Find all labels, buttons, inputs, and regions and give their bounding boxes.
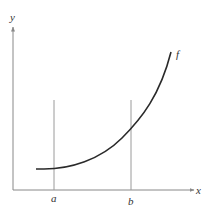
function-label: f bbox=[176, 48, 181, 60]
function-curve bbox=[36, 52, 171, 169]
function-graph: y x f a b bbox=[0, 0, 209, 211]
marker-label-a: a bbox=[51, 192, 57, 204]
y-axis-label: y bbox=[9, 11, 15, 23]
x-axis-label: x bbox=[195, 184, 201, 196]
marker-label-b: b bbox=[128, 195, 134, 207]
